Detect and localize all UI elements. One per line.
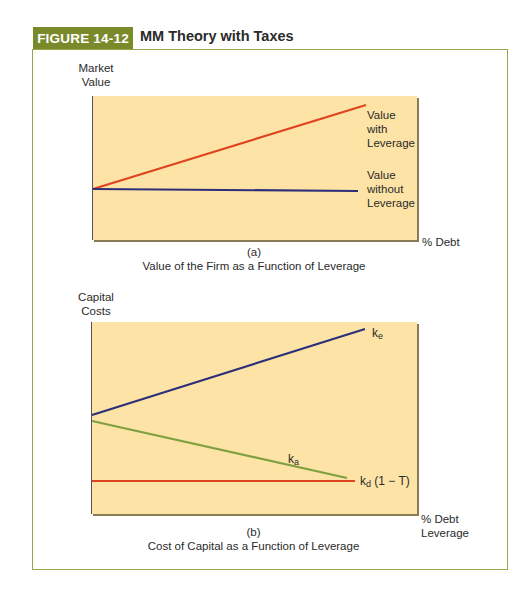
chart-b-xlabel-line2: Leverage bbox=[421, 526, 469, 540]
legend-ke: ke bbox=[372, 326, 383, 343]
chart-b-lines bbox=[0, 0, 531, 600]
chart-b-caption: Cost of Capital as a Function of Leverag… bbox=[91, 539, 416, 553]
legend-kd-tail: (1 − T) bbox=[371, 474, 410, 488]
legend-ke-sub: e bbox=[378, 331, 383, 341]
legend-kd: kd (1 − T) bbox=[360, 474, 410, 491]
legend-ka-sub: a bbox=[294, 457, 299, 467]
legend-ka: ka bbox=[288, 452, 299, 469]
chart-b-xlabel: % Debt Leverage bbox=[421, 512, 469, 540]
chart-b-xlabel-line1: % Debt bbox=[421, 512, 469, 526]
chart-b-line-ke bbox=[92, 329, 365, 415]
chart-b-line-ka bbox=[92, 421, 347, 478]
chart-b-panel-letter: (b) bbox=[91, 525, 416, 539]
